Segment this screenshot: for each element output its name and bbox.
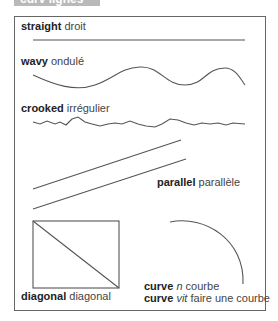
translation: diagonal: [69, 290, 111, 302]
entry-curve-noun: curve n courbe: [144, 280, 219, 292]
entry-diagonal: diagonal diagonal: [21, 290, 111, 302]
entry-wavy: wavy ondulé: [21, 55, 84, 67]
line-illustrations: [0, 0, 278, 321]
entry-crooked: crooked irrégulier: [21, 102, 110, 114]
translation: courbe: [186, 280, 220, 292]
entry-straight: straight droit: [21, 20, 86, 32]
headword: diagonal: [21, 290, 66, 302]
headword: parallel: [157, 176, 196, 188]
translation: droit: [64, 20, 85, 32]
crooked-line: [33, 117, 245, 127]
headword: crooked: [21, 102, 64, 114]
translation: ondulé: [51, 55, 84, 67]
diagonal-line: [33, 221, 119, 288]
entry-parallel: parallel parallèle: [157, 176, 240, 188]
translation: faire une courbe: [190, 292, 270, 304]
headword: wavy: [21, 55, 48, 67]
wavy-line: [33, 67, 245, 88]
part-of-speech: vit: [176, 292, 187, 304]
entry-curve-verb: curve vit faire une courbe: [144, 292, 270, 304]
translation: irrégulier: [67, 102, 110, 114]
headword: curve: [144, 292, 173, 304]
translation: parallèle: [199, 176, 241, 188]
headword: straight: [21, 20, 61, 32]
part-of-speech: n: [176, 280, 182, 292]
headword: curve: [144, 280, 173, 292]
curve-arc: [170, 221, 243, 284]
